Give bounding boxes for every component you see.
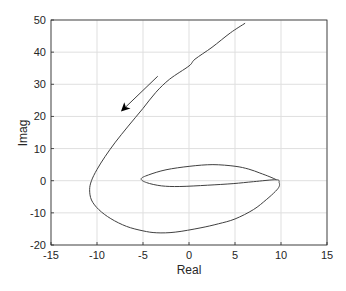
y-tick-label: 40: [34, 46, 46, 58]
y-tick-label: 50: [34, 14, 46, 26]
y-tick-label: 10: [34, 143, 46, 155]
y-tick-label: -10: [30, 207, 46, 219]
x-tick-label: 5: [232, 249, 238, 261]
x-tick-label: 0: [186, 249, 192, 261]
x-tick-label: 10: [275, 249, 287, 261]
x-tick-label: -10: [89, 249, 105, 261]
x-axis-label: Real: [177, 263, 202, 277]
y-tick-label: 30: [34, 78, 46, 90]
figure-background: [0, 0, 346, 291]
y-axis-label: Imag: [16, 120, 30, 147]
y-tick-label: -20: [30, 239, 46, 251]
y-tick-label: 20: [34, 110, 46, 122]
x-tick-label: -5: [138, 249, 148, 261]
nyquist-plot: -15-10-5051015 -20-1001020304050 Real Im…: [0, 0, 346, 291]
x-tick-label: 15: [321, 249, 333, 261]
y-tick-label: 0: [40, 175, 46, 187]
